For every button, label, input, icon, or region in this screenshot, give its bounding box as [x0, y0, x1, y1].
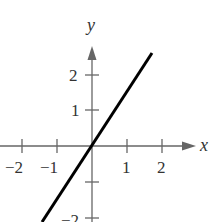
x-tick-label: −1	[40, 158, 58, 177]
chart: y x −2 −1 1 2 2 1 −2	[0, 0, 214, 222]
y-tick-label: 2	[69, 66, 78, 85]
x-axis-label: x	[199, 135, 208, 155]
y-tick-label: 1	[71, 101, 80, 120]
y-axis-arrow-icon	[88, 46, 97, 60]
y-tick-label: −2	[61, 211, 79, 222]
x-tick-label: −2	[5, 158, 23, 177]
y-axis-label: y	[85, 15, 95, 35]
x-axis-arrow-icon	[182, 142, 196, 151]
x-tick-label: 2	[157, 158, 166, 177]
x-tick-label: 1	[122, 158, 131, 177]
data-line	[42, 53, 152, 222]
